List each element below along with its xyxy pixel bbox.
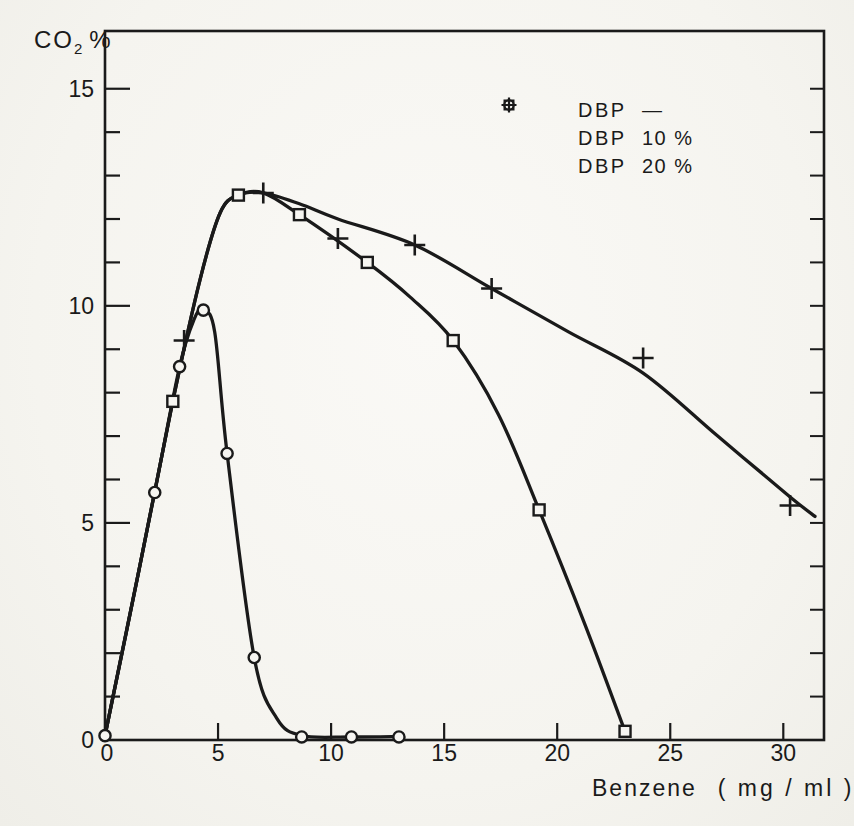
data-point-plus: [633, 347, 654, 368]
legend-series-name: DBP: [578, 127, 642, 150]
data-point-circle: [198, 305, 209, 316]
x-axis-title: Benzene( mg / ml ): [592, 775, 854, 802]
legend-item: DBP—: [500, 96, 694, 124]
data-point-plus: [253, 182, 274, 203]
data-point-square: [534, 504, 545, 515]
data-point-circle: [99, 730, 110, 741]
curve-plus: [105, 192, 815, 736]
x-axis-word: Benzene: [592, 775, 697, 801]
legend-series-value: 20 %: [642, 155, 694, 178]
legend-series-name: DBP: [578, 155, 642, 178]
legend-series-value: —: [642, 99, 664, 122]
plot-frame: [105, 31, 824, 740]
data-point-circle: [296, 731, 307, 742]
data-point-circle: [393, 731, 404, 742]
y-axis-title-main: CO: [34, 26, 74, 53]
plus-marker-icon: [500, 96, 518, 114]
data-point-plus: [780, 495, 801, 516]
data-point-square: [167, 396, 178, 407]
curve-square: [105, 191, 625, 735]
data-point-circle: [221, 448, 232, 459]
x-tick-label: 25: [657, 740, 683, 766]
x-tick-label: 30: [771, 740, 797, 766]
y-tick-label: 15: [68, 76, 94, 102]
data-point-circle: [174, 361, 185, 372]
data-point-circle: [249, 652, 260, 663]
data-point-square: [362, 257, 373, 268]
data-point-circle: [346, 731, 357, 742]
data-point-plus: [481, 278, 502, 299]
legend-item: DBP20 %: [500, 152, 694, 180]
data-point-square: [294, 209, 305, 220]
data-point-circle: [149, 487, 160, 498]
x-tick-label: 10: [318, 740, 344, 766]
percent-sign: %: [89, 26, 112, 53]
x-axis-units: ( mg / ml ): [718, 775, 854, 801]
y-tick-label: 5: [81, 510, 94, 536]
legend: DBP—DBP10 %DBP20 %: [500, 96, 694, 180]
y-tick-label: 0: [81, 727, 94, 753]
data-point-square: [620, 726, 631, 737]
legend-series-value: 10 %: [642, 127, 694, 150]
y-axis-title-sub: 2: [74, 40, 82, 57]
data-point-plus: [404, 235, 425, 256]
x-tick-label: 5: [212, 740, 225, 766]
data-point-plus: [174, 330, 195, 351]
y-tick-label: 10: [68, 293, 94, 319]
y-axis-title: CO2%: [34, 26, 113, 57]
data-point-square: [233, 190, 244, 201]
legend-series-name: DBP: [578, 99, 642, 122]
x-tick-label: 20: [544, 740, 570, 766]
data-point-square: [448, 335, 459, 346]
x-tick-label: 0: [101, 740, 114, 766]
x-tick-label: 15: [431, 740, 457, 766]
legend-item: DBP10 %: [500, 124, 694, 152]
